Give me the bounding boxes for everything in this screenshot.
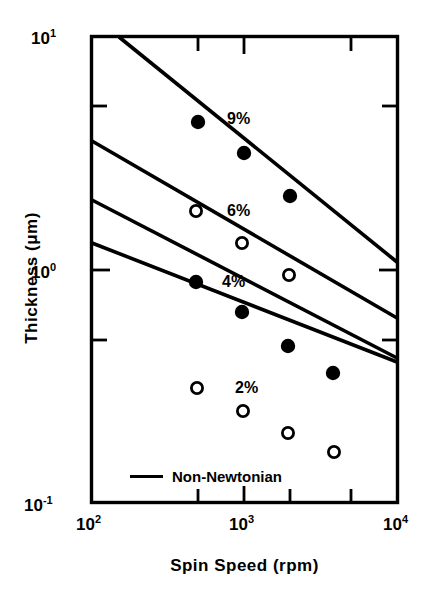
y-tick-label-10e1: 101 xyxy=(31,27,56,49)
series-label-2pct: 2% xyxy=(235,379,258,397)
fit-line-9pct xyxy=(119,37,397,262)
series-label-4pct: 4% xyxy=(222,273,245,291)
legend-label-non-newtonian: Non-Newtonian xyxy=(172,468,282,485)
fit-line-2pct xyxy=(92,243,397,362)
series-label-6pct: 6% xyxy=(227,202,250,220)
x-axis-ticks-top xyxy=(198,38,351,54)
y-axis-ticks-right xyxy=(379,106,396,340)
x-axis-title: Spin Speed (rpm) xyxy=(91,556,398,576)
x-tick-label-10e2: 102 xyxy=(76,513,101,535)
fit-line-6pct xyxy=(92,141,397,318)
legend-line-swatch xyxy=(130,475,163,478)
chart-canvas xyxy=(0,0,436,598)
y-axis-title: Thickness (μm) xyxy=(22,168,42,388)
plot-frame xyxy=(92,37,398,503)
series-label-9pct: 9% xyxy=(227,110,250,128)
y-tick-label-10e-1: 10-1 xyxy=(24,494,53,516)
x-tick-label-10e3: 103 xyxy=(229,513,254,535)
series-9pct-markers xyxy=(191,115,297,203)
series-2pct-markers xyxy=(191,382,339,457)
x-tick-label-10e4: 104 xyxy=(383,513,408,535)
chart-root: 101 100 10-1 102 103 104 9% 6% 4% 2% Non… xyxy=(0,0,436,598)
x-axis-ticks-bottom xyxy=(198,486,351,502)
legend: Non-Newtonian xyxy=(130,468,282,485)
